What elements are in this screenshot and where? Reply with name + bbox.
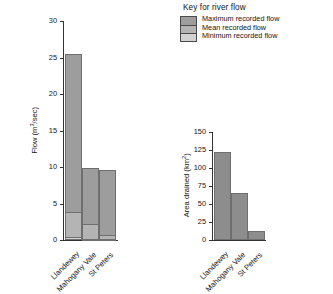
bar-segment bbox=[82, 224, 99, 240]
area-y-axis-title-exponent: 2 bbox=[181, 156, 187, 159]
river-flow-y-tick-label: 0 bbox=[35, 235, 57, 244]
area-drained-chart: Area drained (km2) 0255075100125150 Llan… bbox=[180, 0, 333, 294]
bar-segment bbox=[82, 239, 99, 241]
area-drained-y-tick-label: 25 bbox=[184, 217, 206, 226]
bar bbox=[214, 152, 231, 240]
area-drained-x-axis-line bbox=[212, 240, 266, 241]
area-drained-y-tick-mark bbox=[209, 204, 212, 205]
area-drained-y-tick-label: 100 bbox=[184, 163, 206, 172]
river-flow-y-tick-label: 20 bbox=[35, 89, 57, 98]
bar bbox=[231, 193, 248, 240]
area-drained-y-tick-mark bbox=[209, 132, 212, 133]
area-drained-y-tick-mark bbox=[209, 240, 212, 241]
river-flow-y-tick-label: 15 bbox=[35, 126, 57, 135]
bar-segment bbox=[65, 212, 82, 240]
area-drained-plot-area: 0255075100125150 bbox=[212, 132, 266, 240]
area-drained-y-tick-mark bbox=[209, 150, 212, 151]
area-drained-y-tick-mark bbox=[209, 186, 212, 187]
river-flow-chart: Flow (m3/sec) 051015202530 LlandeweyMaho… bbox=[0, 0, 180, 294]
river-flow-y-tick-label: 5 bbox=[35, 199, 57, 208]
area-drained-y-tick-label: 50 bbox=[184, 199, 206, 208]
river-flow-y-tick-mark bbox=[60, 58, 63, 59]
area-drained-y-tick-label: 125 bbox=[184, 145, 206, 154]
area-drained-y-tick-label: 150 bbox=[184, 127, 206, 136]
river-flow-y-tick-label: 30 bbox=[35, 16, 57, 25]
river-flow-y-tick-mark bbox=[60, 167, 63, 168]
flow-y-axis-title-tail: /sec) bbox=[30, 106, 39, 122]
area-drained-y-tick-mark bbox=[209, 168, 212, 169]
area-drained-y-tick-mark bbox=[209, 222, 212, 223]
area-drained-y-tick-label: 0 bbox=[184, 235, 206, 244]
area-drained-y-tick-label: 75 bbox=[184, 181, 206, 190]
bar-segment bbox=[99, 239, 116, 241]
area-drained-y-axis-line bbox=[212, 132, 213, 240]
river-flow-plot-area: 051015202530 bbox=[63, 21, 118, 240]
bar-segment bbox=[65, 237, 82, 240]
river-flow-y-tick-mark bbox=[60, 131, 63, 132]
river-flow-y-axis-line bbox=[63, 21, 64, 240]
river-flow-y-tick-mark bbox=[60, 204, 63, 205]
bar-segment bbox=[99, 170, 116, 240]
river-flow-y-tick-mark bbox=[60, 94, 63, 95]
river-flow-y-tick-label: 10 bbox=[35, 162, 57, 171]
bar bbox=[248, 231, 265, 240]
river-flow-y-tick-mark bbox=[60, 240, 63, 241]
river-flow-y-tick-label: 25 bbox=[35, 53, 57, 62]
river-flow-y-tick-mark bbox=[60, 21, 63, 22]
